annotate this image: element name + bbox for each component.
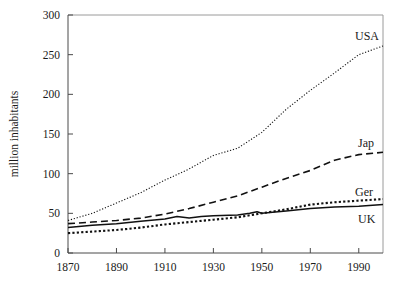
series-label-usa: USA bbox=[355, 29, 379, 43]
x-tick-label: 1950 bbox=[250, 261, 273, 273]
series-label-uk: UK bbox=[358, 212, 376, 226]
series-line-jap bbox=[68, 152, 383, 223]
series-line-uk bbox=[68, 205, 383, 228]
series-line-ger bbox=[68, 199, 383, 233]
y-tick-label: 50 bbox=[49, 207, 61, 219]
y-tick-label: 300 bbox=[43, 9, 61, 21]
x-tick-label: 1870 bbox=[57, 261, 80, 273]
population-line-chart: 050100150200250300 187018901910193019501… bbox=[0, 0, 398, 297]
chart-figure: 050100150200250300 187018901910193019501… bbox=[0, 0, 398, 297]
series-labels-group: USAJapGerUK bbox=[355, 29, 379, 226]
series-paths-group bbox=[68, 46, 383, 233]
y-tick-label: 250 bbox=[43, 49, 61, 61]
y-tick-label: 200 bbox=[43, 88, 61, 100]
y-axis-title: million inhabitants bbox=[8, 90, 20, 177]
series-line-usa bbox=[68, 46, 383, 221]
x-axis-ticks: 1870189019101930195019701990 bbox=[57, 248, 371, 273]
series-label-jap: Jap bbox=[358, 136, 374, 150]
series-label-ger: Ger bbox=[355, 185, 373, 199]
x-tick-label: 1890 bbox=[105, 261, 128, 273]
x-tick-label: 1930 bbox=[202, 261, 225, 273]
y-tick-label: 100 bbox=[43, 168, 61, 180]
x-tick-label: 1910 bbox=[153, 261, 176, 273]
y-tick-label: 0 bbox=[54, 247, 60, 259]
x-tick-label: 1990 bbox=[347, 261, 370, 273]
x-tick-label: 1970 bbox=[299, 261, 322, 273]
y-tick-label: 150 bbox=[43, 128, 61, 140]
plot-frame bbox=[68, 15, 383, 253]
